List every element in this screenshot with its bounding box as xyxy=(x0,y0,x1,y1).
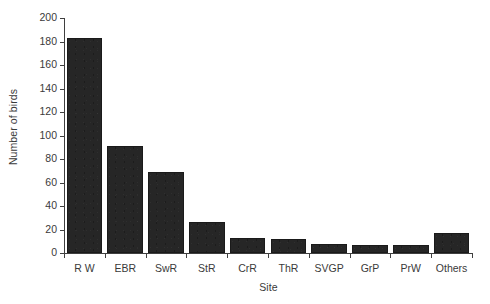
x-tick-mark xyxy=(105,254,106,258)
x-tick-label: ThR xyxy=(268,261,309,275)
bar xyxy=(189,222,225,253)
x-tick-mark xyxy=(227,254,228,258)
x-axis-title: Site xyxy=(64,281,473,293)
x-tick-mark xyxy=(390,254,391,258)
x-tick-mark xyxy=(64,254,65,258)
bar xyxy=(352,245,388,253)
x-tick-label: Others xyxy=(431,261,472,275)
y-axis-tick: 200 xyxy=(0,18,64,19)
y-axis-title: Number of birds xyxy=(4,0,22,254)
x-tick-label: StR xyxy=(186,261,227,275)
y-tick-label: 0 xyxy=(51,246,57,259)
y-axis-tick: 140 xyxy=(0,89,64,90)
y-tick-label: 80 xyxy=(45,152,57,165)
x-tick-label: SwR xyxy=(146,261,187,275)
y-axis-tick: 0 xyxy=(0,253,64,254)
x-tick-label: PrW xyxy=(390,261,431,275)
y-tick-label: 120 xyxy=(39,105,57,118)
bar xyxy=(230,238,266,253)
x-tick-mark xyxy=(186,254,187,258)
y-tick-label: 20 xyxy=(45,223,57,236)
y-axis-tick: 60 xyxy=(0,183,64,184)
bar xyxy=(271,239,307,253)
y-axis-tick: 100 xyxy=(0,136,64,137)
y-axis-tick: 120 xyxy=(0,112,64,113)
x-tick-label: CrR xyxy=(227,261,268,275)
y-tick-label: 60 xyxy=(45,176,57,189)
x-tick-mark xyxy=(309,254,310,258)
y-axis-tick: 40 xyxy=(0,206,64,207)
y-tick-label: 160 xyxy=(39,58,57,71)
bar xyxy=(148,172,184,253)
bar xyxy=(434,233,470,253)
plot-area xyxy=(64,18,472,253)
bar xyxy=(393,245,429,253)
bar-chart: Number of birds 020406080100120140160180… xyxy=(0,0,490,304)
y-tick-label: 140 xyxy=(39,82,57,95)
x-tick-label: SVGP xyxy=(309,261,350,275)
bar xyxy=(67,38,103,253)
x-tick-mark xyxy=(268,254,269,258)
bar xyxy=(107,146,143,253)
x-tick-label: GrP xyxy=(350,261,391,275)
x-tick-mark xyxy=(146,254,147,258)
x-tick-mark xyxy=(350,254,351,258)
x-tick-label: EBR xyxy=(105,261,146,275)
x-tick-label: R W xyxy=(64,261,105,275)
y-axis-tick: 180 xyxy=(0,42,64,43)
y-tick-label: 180 xyxy=(39,35,57,48)
y-axis-tick: 160 xyxy=(0,65,64,66)
y-tick-label: 200 xyxy=(39,11,57,24)
y-tick-label: 100 xyxy=(39,129,57,142)
y-axis-tick: 20 xyxy=(0,230,64,231)
x-tick-mark xyxy=(472,254,473,258)
y-axis-tick: 80 xyxy=(0,159,64,160)
x-tick-mark xyxy=(431,254,432,258)
y-tick-label: 40 xyxy=(45,199,57,212)
bar xyxy=(311,244,347,253)
